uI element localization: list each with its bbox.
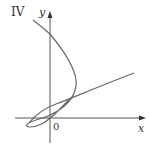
panel-label: IV bbox=[11, 6, 24, 18]
curve-branch-upper bbox=[27, 20, 77, 127]
y-axis-arrow-icon bbox=[48, 11, 53, 18]
origin-label: 0 bbox=[53, 122, 59, 132]
parametric-curve-plot bbox=[0, 0, 150, 147]
y-axis-label: y bbox=[39, 7, 45, 18]
x-axis-label: x bbox=[138, 123, 144, 134]
x-axis-arrow-icon bbox=[139, 116, 146, 121]
curve-branch-rising bbox=[29, 73, 134, 123]
